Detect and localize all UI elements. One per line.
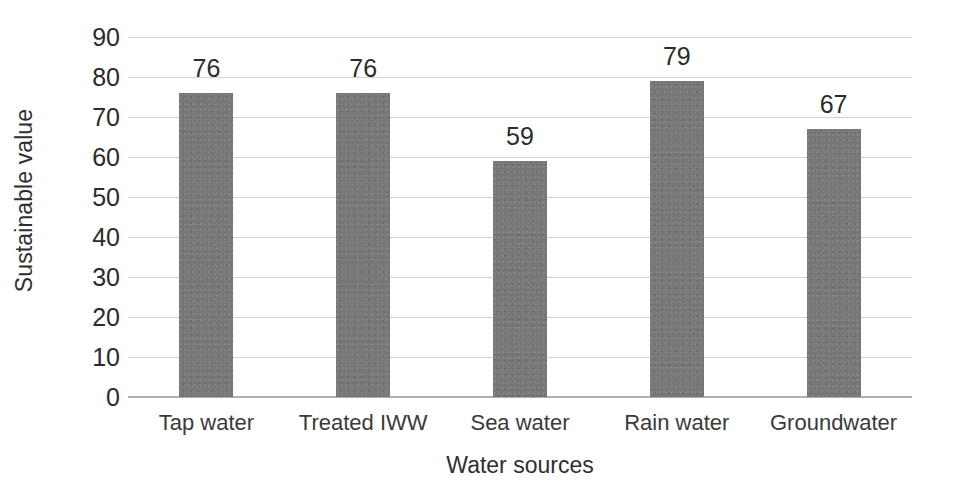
bar-group: 67Groundwater [755, 0, 912, 490]
y-tick-label: 20 [46, 305, 120, 330]
y-tick-label: 10 [46, 345, 120, 370]
bar-group: 79Rain water [598, 0, 755, 490]
bar-value-label: 67 [820, 92, 848, 117]
bar[interactable] [336, 93, 390, 397]
bar-value-label: 76 [349, 56, 377, 81]
y-tick-label: 50 [46, 185, 120, 210]
y-tick-label: 60 [46, 145, 120, 170]
y-tick-label: 40 [46, 225, 120, 250]
bar[interactable] [493, 161, 547, 397]
bar-value-label: 59 [506, 124, 534, 149]
y-axis-tick-labels: 9080706050403020100 [46, 0, 120, 490]
x-tick-label: Groundwater [770, 412, 897, 434]
bar-value-label: 76 [192, 56, 220, 81]
bar-group: 59Sea water [442, 0, 599, 490]
y-tick-label: 0 [46, 385, 120, 410]
bar-group: 76Treated IWW [285, 0, 442, 490]
y-tick-label: 90 [46, 25, 120, 50]
y-axis-title: Sustainable value [10, 0, 40, 400]
x-tick-label: Tap water [159, 412, 254, 434]
y-tick-label: 30 [46, 265, 120, 290]
y-tick-label: 80 [46, 65, 120, 90]
y-axis-title-text: Sustainable value [12, 108, 39, 291]
bar-group: 76Tap water [128, 0, 285, 490]
y-tick-label: 70 [46, 105, 120, 130]
plot-area: 76Tap water76Treated IWW59Sea water79Rai… [128, 0, 912, 490]
bar-chart: Sustainable value 9080706050403020100 76… [0, 0, 957, 490]
bar[interactable] [179, 93, 233, 397]
x-tick-label: Rain water [624, 412, 729, 434]
x-tick-label: Sea water [470, 412, 569, 434]
bar[interactable] [650, 81, 704, 397]
bar[interactable] [807, 129, 861, 397]
x-axis-title: Water sources [128, 452, 912, 479]
bar-value-label: 79 [663, 44, 691, 69]
x-tick-label: Treated IWW [299, 412, 428, 434]
bar-series: 76Tap water76Treated IWW59Sea water79Rai… [128, 0, 912, 490]
